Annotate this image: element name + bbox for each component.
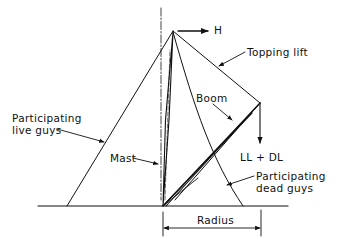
label-boom: Boom bbox=[196, 92, 227, 104]
boom-leader bbox=[213, 104, 232, 120]
label-dead-guys-line1: Participating bbox=[256, 170, 326, 182]
topping-lift-leader bbox=[219, 52, 245, 66]
label-radius: Radius bbox=[197, 214, 234, 226]
label-dead-guys-line2: dead guys bbox=[256, 182, 313, 194]
label-topping-lift: Topping lift bbox=[247, 46, 308, 58]
label-live-guys-line1: Participating bbox=[12, 112, 82, 124]
label-live-guys-line2: live guys bbox=[12, 124, 62, 136]
label-mast: Mast bbox=[110, 152, 136, 164]
label-load: LL + DL bbox=[240, 151, 283, 163]
label-h: H bbox=[214, 24, 222, 36]
live-guys-leader bbox=[57, 129, 104, 142]
mast-leader bbox=[133, 158, 158, 164]
live-guy-line bbox=[67, 31, 173, 206]
mast-shape bbox=[163, 32, 173, 206]
dead-guy-curve bbox=[173, 32, 243, 206]
dead-guys-leader bbox=[227, 176, 254, 185]
